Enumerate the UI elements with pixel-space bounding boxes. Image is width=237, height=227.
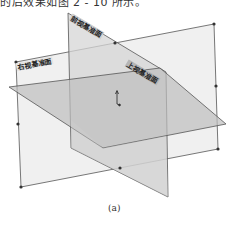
handle-dot[interactable] xyxy=(113,41,116,44)
handle-dot[interactable] xyxy=(118,166,121,169)
handle-dot[interactable] xyxy=(214,84,217,87)
reference-planes-diagram: 前视基准面 右视基准面 上视基准面 xyxy=(0,0,237,227)
handle-dot[interactable] xyxy=(216,147,219,150)
figure-caption: (a) xyxy=(108,203,120,213)
handle-dot[interactable] xyxy=(16,122,19,125)
handle-dot[interactable] xyxy=(212,22,215,25)
handle-dot[interactable] xyxy=(19,185,22,188)
